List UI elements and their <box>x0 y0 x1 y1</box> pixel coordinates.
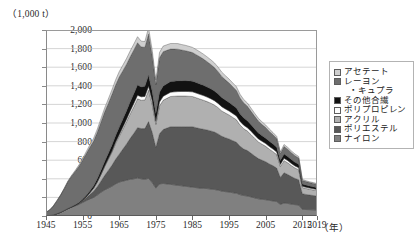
legend-item[interactable]: その他合繊 <box>334 96 410 105</box>
x-tick-label: 1995 <box>219 220 238 230</box>
legend-swatch-icon <box>334 126 341 133</box>
stacked-area-plot <box>46 30 317 216</box>
x-tick-label: 1955 <box>73 220 92 230</box>
chart-figure: （1,000 t） 2,0001,8001,6001,4001,2001,000… <box>0 0 417 243</box>
x-tick-mark <box>229 216 230 220</box>
x-tick-mark <box>156 216 157 220</box>
legend-item[interactable]: アクリル <box>334 115 410 124</box>
x-tick-label: 1965 <box>110 220 129 230</box>
legend-item[interactable]: ポリエステル <box>334 124 410 133</box>
legend-item-label: アクリル <box>344 115 380 124</box>
legend-item[interactable]: ナイロン <box>334 134 410 143</box>
y-axis-unit-label: （1,000 t） <box>7 6 55 20</box>
x-tick-label: 1985 <box>183 220 202 230</box>
legend-item-label: ポリプロピレン <box>344 105 406 114</box>
x-tick-label: 1945 <box>36 220 55 230</box>
legend-item-label: ポリエステル <box>344 124 397 133</box>
legend-item-label: その他合繊 <box>344 96 389 105</box>
legend-swatch-icon <box>334 97 341 104</box>
legend-item-label: アセテート <box>344 67 389 76</box>
x-tick-mark <box>83 216 84 220</box>
legend-item[interactable]: ポリプロピレン <box>334 105 410 114</box>
legend-item-label: レーヨン <box>344 77 380 86</box>
legend-item[interactable]: レーヨン <box>334 77 410 86</box>
x-axis-unit-label: （年） <box>319 220 349 234</box>
x-tick-mark <box>302 216 303 220</box>
legend-swatch-icon <box>334 135 341 142</box>
x-tick-mark <box>119 216 120 220</box>
x-tick-mark <box>317 216 318 220</box>
x-tick-mark <box>266 216 267 220</box>
legend-item-sublabel: ・キュプラ <box>334 86 410 95</box>
legend-swatch-icon <box>334 116 341 123</box>
legend-swatch-icon <box>334 69 341 76</box>
x-tick-label: 2005 <box>256 220 275 230</box>
plot-area <box>46 30 317 216</box>
x-tick-label: 1975 <box>146 220 165 230</box>
legend-swatch-icon <box>334 107 341 114</box>
legend-item-label: ナイロン <box>344 134 380 143</box>
chart-legend: アセテートレーヨン・キュプラその他合繊ポリプロピレンアクリルポリエステルナイロン <box>329 61 414 149</box>
legend-swatch-icon <box>334 78 341 85</box>
x-tick-mark <box>192 216 193 220</box>
x-tick-mark <box>46 216 47 220</box>
legend-item[interactable]: アセテート <box>334 67 410 76</box>
